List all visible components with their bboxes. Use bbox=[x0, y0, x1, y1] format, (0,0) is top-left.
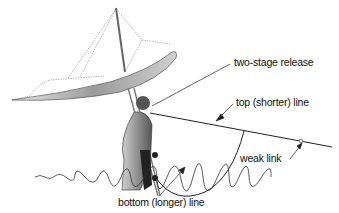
leader-lines bbox=[152, 64, 302, 195]
label-bottom-line: bottom (longer) line bbox=[118, 196, 204, 208]
glider-wing bbox=[12, 52, 177, 101]
label-two-stage-release: two-stage release bbox=[234, 56, 313, 68]
weak-link-marker bbox=[299, 139, 303, 143]
kingpost bbox=[116, 8, 125, 72]
label-weak-link: weak link bbox=[240, 152, 281, 164]
label-top-line: top (shorter) line bbox=[236, 96, 309, 108]
